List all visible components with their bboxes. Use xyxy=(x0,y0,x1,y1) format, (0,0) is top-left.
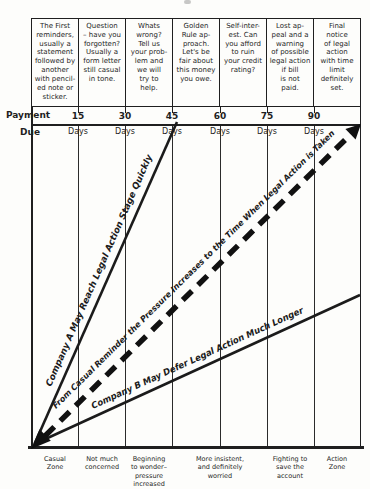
zone-beginning: Beginning to wonder– pressure increased xyxy=(119,455,179,489)
collection-letter-diagram: The First reminders, usually a statement… xyxy=(0,0,370,489)
dashed-line-arrowhead-icon xyxy=(345,124,361,140)
zone-more-insistent: More insistent, and definitely worried xyxy=(180,455,260,480)
pressure-lines-overlay: Company A May Reach Legal Action Stage Q… xyxy=(0,0,370,489)
company-a-line-label: Company A May Reach Legal Action Stage Q… xyxy=(44,152,155,388)
zone-action: Action Zone xyxy=(307,455,367,472)
